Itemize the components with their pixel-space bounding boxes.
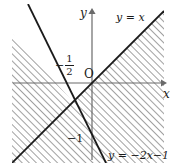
x-intercept-label: − 1 2 [55, 54, 74, 77]
curve-label-y-equals-x: y = x [116, 12, 145, 23]
fraction-denominator: 2 [65, 67, 73, 77]
shaded-solution-region [12, 0, 165, 163]
fraction-numerator: 1 [65, 54, 73, 64]
y-intercept-label: −1 [67, 133, 83, 144]
graph-figure: y x y = x y = −2x−1 O − 1 2 −1 [0, 0, 176, 167]
origin-label: O [84, 68, 94, 80]
x-axis-label: x [163, 88, 170, 100]
curve-label-y-equals-neg-2x-minus-1: y = −2x−1 [108, 150, 169, 161]
coordinate-plane [0, 0, 176, 167]
minus-sign-glyph: − [55, 60, 64, 71]
fraction-one-half: 1 2 [65, 54, 73, 77]
y-axis-label: y [80, 7, 87, 19]
